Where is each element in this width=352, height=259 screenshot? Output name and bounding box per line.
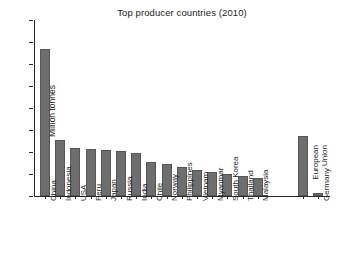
x-tick-mark — [121, 196, 122, 199]
x-tick-label: Germany — [322, 168, 331, 201]
x-tick-label: Japan — [109, 179, 118, 201]
x-tick-mark — [106, 196, 107, 199]
x-tick-mark — [91, 196, 92, 199]
x-tick-mark — [212, 196, 213, 199]
x-tick-mark — [151, 196, 152, 199]
y-tick-mark — [29, 108, 33, 109]
x-tick-label: USA — [79, 185, 88, 201]
bar-china — [40, 49, 50, 196]
x-tick-mark — [75, 196, 76, 199]
bar-series — [34, 20, 330, 196]
x-tick-mark — [318, 196, 319, 199]
y-tick-mark — [29, 152, 33, 153]
x-tick-mark — [60, 196, 61, 199]
x-tick-label: South Korea — [231, 157, 240, 201]
chart-title: Top producer countries (2010) — [34, 7, 330, 18]
x-tick-mark — [136, 196, 137, 199]
x-tick-mark — [45, 196, 46, 199]
y-tick-mark — [29, 64, 33, 65]
x-tick-label: India — [140, 184, 149, 201]
y-tick-mark — [29, 130, 33, 131]
x-tick-label: Norway — [170, 174, 179, 201]
y-tick-mark — [29, 196, 33, 197]
bar-european-union — [298, 136, 308, 197]
x-tick-label: Philippines — [185, 162, 194, 201]
y-tick-mark — [29, 174, 33, 175]
bar-chart-figure: Top producer countries (2010) Million to… — [0, 0, 352, 259]
x-tick-mark — [182, 196, 183, 199]
x-tick-label: Vietnam — [201, 172, 210, 201]
x-tick-mark — [227, 196, 228, 199]
x-tick-label: China — [49, 180, 58, 201]
y-tick-mark — [29, 20, 33, 21]
x-tick-label: Chile — [155, 183, 164, 201]
x-tick-mark — [258, 196, 259, 199]
y-tick-mark — [29, 42, 33, 43]
x-tick-label: Indonesia — [64, 166, 73, 201]
y-tick-mark — [29, 86, 33, 87]
x-tick-mark — [243, 196, 244, 199]
x-tick-mark — [197, 196, 198, 199]
x-tick-label: Malaysia — [261, 169, 270, 201]
x-tick-group: ChinaIndonesiaUSAPeruJapanRussiaIndiaChi… — [34, 196, 330, 259]
x-tick-label: Russia — [125, 177, 134, 201]
x-tick-label: Thailand — [246, 170, 255, 201]
x-tick-label: Peru — [94, 184, 103, 201]
x-tick-label: Myanmar — [216, 168, 225, 201]
x-tick-mark — [303, 196, 304, 199]
x-tick-mark — [167, 196, 168, 199]
